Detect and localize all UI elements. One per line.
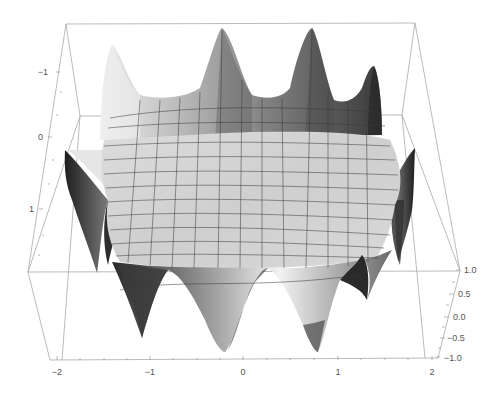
surface-plot: −2 −1 0 1 2 −1 0 1 1.0 0.5 0.0 −0.5 −1.0 bbox=[0, 0, 501, 395]
z-tick-label: 0.0 bbox=[453, 312, 466, 322]
z-tick-label: −1.0 bbox=[444, 353, 462, 363]
y-tick-label: 1 bbox=[29, 204, 34, 214]
y-tick-label: 0 bbox=[38, 132, 43, 142]
x-tick-label: 2 bbox=[429, 367, 434, 377]
x-axis-labels: −2 −1 0 1 2 bbox=[52, 367, 435, 377]
y-tick-label: −1 bbox=[38, 67, 48, 77]
x-tick-label: −1 bbox=[145, 367, 155, 377]
x-tick-label: 1 bbox=[335, 367, 340, 377]
z-tick-label: 1.0 bbox=[464, 265, 477, 275]
x-tick-label: 0 bbox=[240, 367, 245, 377]
x-tick-label: −2 bbox=[52, 367, 62, 377]
surface-back-rim bbox=[100, 28, 382, 140]
y-axis-ticks bbox=[38, 72, 62, 255]
z-tick-label: 0.5 bbox=[458, 289, 471, 299]
z-tick-label: −0.5 bbox=[447, 333, 465, 343]
y-axis-labels: −1 0 1 bbox=[29, 67, 48, 214]
